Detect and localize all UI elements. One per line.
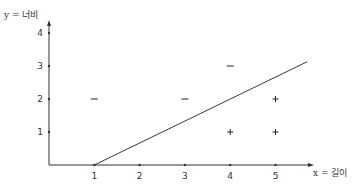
y-axis-arrow-icon bbox=[47, 20, 51, 26]
x-tick-label: 1 bbox=[91, 171, 97, 181]
boundary-line bbox=[94, 62, 307, 165]
x-tick bbox=[229, 164, 231, 166]
y-tick bbox=[48, 32, 50, 34]
x-tick-label: 3 bbox=[182, 171, 188, 181]
plus-marker-icon bbox=[273, 129, 279, 135]
y-tick-label: 1 bbox=[37, 127, 43, 137]
x-axis-label: x = 길이 bbox=[313, 168, 347, 178]
x-tick bbox=[138, 164, 140, 166]
x-tick-label: 4 bbox=[227, 171, 233, 181]
y-tick-label: 3 bbox=[37, 61, 43, 71]
plus-marker-icon bbox=[227, 129, 233, 135]
x-tick-label: 5 bbox=[273, 171, 279, 181]
y-tick-label: 2 bbox=[37, 94, 43, 104]
x-axis-arrow-icon bbox=[308, 163, 314, 167]
y-axis-label: y = 너비 bbox=[3, 10, 38, 20]
y-tick bbox=[48, 98, 50, 100]
x-tick bbox=[184, 164, 186, 166]
scatter-chart: 123451234 x = 길이 y = 너비 bbox=[0, 0, 358, 188]
x-tick-label: 2 bbox=[137, 171, 143, 181]
y-tick bbox=[48, 65, 50, 67]
x-tick bbox=[274, 164, 276, 166]
data-points bbox=[91, 66, 279, 135]
y-tick-label: 4 bbox=[37, 28, 43, 38]
ticks: 123451234 bbox=[37, 28, 278, 181]
axes bbox=[47, 20, 314, 167]
decision-boundary bbox=[94, 62, 307, 165]
y-tick bbox=[48, 131, 50, 133]
plus-marker-icon bbox=[273, 96, 279, 102]
